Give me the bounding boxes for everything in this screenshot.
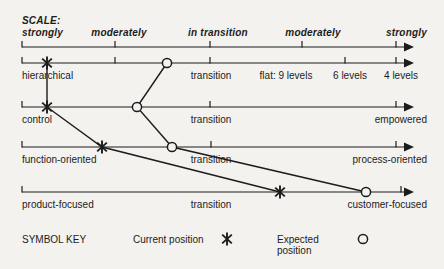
scale-label-in-transition: in transition — [188, 27, 248, 38]
arrowhead-icon — [404, 143, 414, 152]
expected-position-circle-icon — [361, 187, 370, 196]
current-position-path — [47, 63, 280, 192]
scale-label-moderately-left: moderately — [91, 27, 146, 38]
expected-position-circle-icon — [162, 58, 171, 67]
key-current-label: Current position — [133, 234, 204, 245]
scale-label-strongly-right: strongly — [386, 27, 427, 38]
expected-position-circle-icon — [355, 231, 371, 247]
axis-label-transition-2: transition — [191, 114, 232, 125]
axis-label-empowered: empowered — [375, 114, 427, 125]
axis-label-customer-focused: customer-focused — [348, 199, 427, 210]
symbol-key-title: SYMBOL KEY — [22, 234, 86, 245]
scale-title: SCALE: — [22, 15, 60, 26]
axis-label-flat-9-levels: flat: 9 levels — [260, 70, 313, 81]
arrowhead-icon — [404, 188, 414, 197]
axis-label-transition-1: transition — [191, 70, 232, 81]
arrowhead-icon — [404, 103, 414, 112]
scale-label-moderately-right: moderately — [285, 27, 340, 38]
diagram-geometry — [0, 0, 444, 269]
axis-label-hierarchical: hierarchical — [22, 70, 73, 81]
axis-label-transition-3: transition — [191, 154, 232, 165]
axis-label-product-focused: product-focused — [22, 199, 94, 210]
arrowhead-icon — [404, 59, 414, 68]
scale-label-strongly-left: strongly — [22, 27, 63, 38]
axis-label-process-oriented: process-oriented — [353, 154, 427, 165]
expected-position-path — [137, 63, 366, 192]
arrowhead-icon — [404, 43, 414, 52]
axis-label-6-levels: 6 levels — [333, 70, 367, 81]
assessment-scales-diagram: SCALE: strongly moderately in transition… — [0, 0, 444, 269]
axis-label-function-oriented: function-oriented — [22, 154, 97, 165]
expected-position-circle-icon — [132, 102, 141, 111]
axis-label-transition-4: transition — [191, 199, 232, 210]
expected-position-circle-icon — [167, 142, 176, 151]
axis-label-control: control — [22, 114, 52, 125]
current-position-star-icon — [219, 231, 235, 247]
key-expected-label: Expected position — [277, 234, 329, 256]
axis-label-4-levels: 4 levels — [384, 70, 418, 81]
